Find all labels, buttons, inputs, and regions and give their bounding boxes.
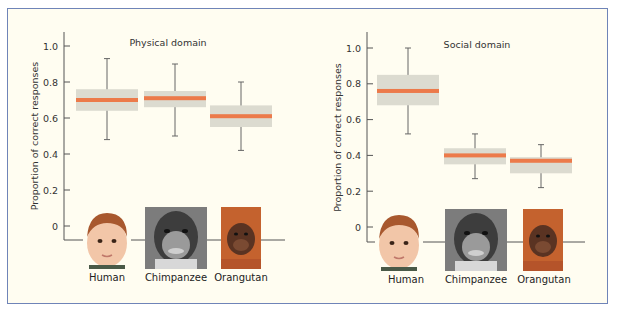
median-line xyxy=(444,153,506,157)
orangutan-photo xyxy=(221,207,261,269)
x-category-label: Orangutan xyxy=(196,272,286,283)
y-tick-label: 0.8 xyxy=(43,77,58,88)
box-orangutan xyxy=(210,82,272,150)
y-tick-label: 0.2 xyxy=(346,186,361,197)
chimpanzee-face-icon xyxy=(145,207,207,269)
y-tick-label: 1.0 xyxy=(346,43,361,54)
y-tick-label: 0.8 xyxy=(346,78,361,89)
box-chimpanzee xyxy=(144,64,206,136)
human-face-icon xyxy=(83,207,131,269)
box-human xyxy=(377,48,439,134)
y-axis-label: Proportion of correct responses xyxy=(332,63,343,212)
box-human xyxy=(76,59,138,140)
orangutan-face-icon xyxy=(523,209,563,271)
median-line xyxy=(377,89,439,93)
y-tick-label: 0 xyxy=(52,221,58,232)
box-chimpanzee xyxy=(444,134,506,179)
chart-title: Physical domain xyxy=(129,37,206,48)
median-line xyxy=(76,98,138,102)
median-line xyxy=(144,96,206,100)
chimpanzee-photo xyxy=(445,209,507,271)
y-tick-label: 0.6 xyxy=(43,113,58,124)
chart-title: Social domain xyxy=(444,39,511,50)
y-tick-label: 0.6 xyxy=(346,114,361,125)
orangutan-face-icon xyxy=(221,207,261,269)
y-axis-label: Proportion of correct responses xyxy=(29,62,40,211)
human-child-photo xyxy=(83,207,131,269)
human-child-photo xyxy=(375,209,423,271)
y-tick-label: 0.2 xyxy=(43,185,58,196)
human-face-icon xyxy=(375,209,423,271)
y-tick-label: 1.0 xyxy=(43,41,58,52)
y-tick-label: 0 xyxy=(355,222,361,233)
orangutan-photo xyxy=(523,209,563,271)
median-line xyxy=(510,159,572,163)
y-tick-label: 0.4 xyxy=(43,149,58,160)
box-orangutan xyxy=(510,145,572,188)
chimpanzee-face-icon xyxy=(445,209,507,271)
x-category-label: Orangutan xyxy=(499,274,589,285)
chimpanzee-photo xyxy=(145,207,207,269)
y-tick-label: 0.4 xyxy=(346,150,361,161)
median-line xyxy=(210,114,272,118)
